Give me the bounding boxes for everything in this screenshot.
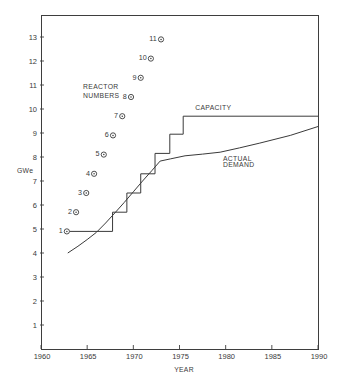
marker-center-dot xyxy=(75,211,77,213)
reactor-markers: 1234567891011 xyxy=(59,34,164,235)
plot-border xyxy=(41,15,318,349)
marker-center-dot xyxy=(160,39,162,41)
y-tick-label: 6 xyxy=(33,201,37,210)
marker-center-dot xyxy=(130,96,132,98)
reactor-number-label: 2 xyxy=(68,207,72,216)
reactor-point: 1 xyxy=(59,226,70,235)
marker-center-dot xyxy=(66,231,68,233)
reactor-point: 3 xyxy=(78,188,89,197)
marker-center-dot xyxy=(103,154,105,156)
reactor-number-label: 3 xyxy=(78,188,82,197)
x-axis-ticks: 1960196519701975198019851990 xyxy=(34,345,328,361)
annotation-label: REACTOR xyxy=(83,83,119,90)
y-tick-label: 10 xyxy=(29,105,37,114)
reactor-number-label: 1 xyxy=(59,226,63,235)
y-axis-title: GWe xyxy=(17,167,33,174)
x-tick-label: 1975 xyxy=(172,352,189,361)
x-tick-label: 1985 xyxy=(264,352,281,361)
reactor-number-label: 6 xyxy=(105,130,109,139)
reactor-point: 11 xyxy=(149,34,163,43)
marker-center-dot xyxy=(140,77,142,79)
marker-center-dot xyxy=(112,135,114,137)
x-tick-label: 1980 xyxy=(218,352,235,361)
reactor-number-label: 11 xyxy=(149,34,156,43)
y-tick-label: 8 xyxy=(33,153,37,162)
reactor-number-label: 10 xyxy=(139,53,147,62)
reactor-point: 10 xyxy=(139,53,154,62)
reactor-point: 5 xyxy=(96,149,107,158)
annotation-label: CAPACITY xyxy=(195,104,231,111)
reactor-point: 6 xyxy=(105,130,116,139)
reactor-point: 8 xyxy=(123,92,134,101)
reactor-point: 4 xyxy=(86,169,97,178)
reactor-number-label: 4 xyxy=(86,169,90,178)
marker-center-dot xyxy=(93,173,95,175)
marker-center-dot xyxy=(122,115,124,117)
reactor-point: 2 xyxy=(68,207,79,216)
marker-center-dot xyxy=(150,58,152,60)
y-tick-label: 2 xyxy=(33,297,37,306)
reactor-number-label: 5 xyxy=(96,149,100,158)
y-tick-label: 13 xyxy=(29,33,37,42)
y-axis-ticks: 12345678910111213 xyxy=(29,33,44,330)
capacity-demand-chart: 12345678910111213 1960196519701975198019… xyxy=(0,0,343,388)
x-tick-label: 1990 xyxy=(311,352,328,361)
reactor-point: 9 xyxy=(133,73,144,82)
y-tick-label: 12 xyxy=(29,57,37,66)
x-tick-label: 1970 xyxy=(126,352,143,361)
reactor-number-label: 9 xyxy=(133,73,137,82)
figure: 12345678910111213 1960196519701975198019… xyxy=(0,0,343,388)
annotations: REACTORNUMBERSCAPACITYACTUALDEMAND xyxy=(83,83,254,168)
actual-demand-line xyxy=(68,127,318,253)
plot-frame xyxy=(41,15,318,349)
y-tick-label: 11 xyxy=(29,81,37,90)
reactor-number-label: 7 xyxy=(114,111,118,120)
x-axis-title: YEAR xyxy=(174,366,194,373)
reactor-point: 7 xyxy=(114,111,125,120)
annotation-label: DEMAND xyxy=(223,161,255,168)
y-tick-label: 1 xyxy=(33,321,37,330)
annotation-label: NUMBERS xyxy=(83,92,120,99)
y-tick-label: 4 xyxy=(33,249,37,258)
y-tick-label: 5 xyxy=(33,225,37,234)
reactor-number-label: 8 xyxy=(123,92,127,101)
x-tick-label: 1960 xyxy=(34,352,51,361)
y-tick-label: 3 xyxy=(33,273,37,282)
x-tick-label: 1965 xyxy=(80,352,97,361)
y-tick-label: 9 xyxy=(33,129,37,138)
y-tick-label: 7 xyxy=(33,177,37,186)
marker-center-dot xyxy=(85,192,87,194)
